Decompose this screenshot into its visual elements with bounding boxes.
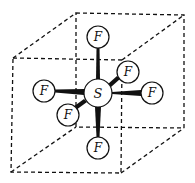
cube-edge-top-right (122, 15, 184, 60)
atom-sulfur: S (84, 79, 112, 107)
cube-edge-top-left (13, 13, 76, 58)
svg-text:F: F (93, 30, 103, 44)
atoms: S F F F F F F (33, 26, 163, 159)
bond-left (55, 89, 84, 95)
svg-text:F: F (123, 65, 133, 79)
atom-fluorine-left: F (33, 80, 55, 102)
svg-text:S: S (94, 86, 103, 101)
svg-text:F: F (147, 86, 157, 100)
atom-fluorine-bottom: F (87, 137, 109, 159)
atom-fluorine-front-left: F (57, 104, 79, 126)
bond-bottom (95, 107, 101, 137)
svg-text:F: F (39, 84, 49, 98)
cube-edge-bottom-right (121, 128, 184, 173)
cube-edge-bottom-left (11, 127, 76, 172)
svg-text:F: F (63, 108, 73, 122)
atom-fluorine-back-right: F (117, 61, 139, 83)
atom-fluorine-right: F (141, 82, 163, 104)
sf6-cube-diagram: S F F F F F F (0, 0, 195, 183)
bond-top (96, 48, 100, 80)
bond-right (112, 90, 141, 96)
svg-text:F: F (93, 141, 103, 155)
atom-fluorine-top: F (87, 26, 109, 48)
